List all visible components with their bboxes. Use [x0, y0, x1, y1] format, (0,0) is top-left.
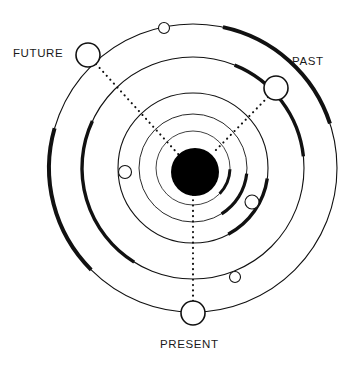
- core-circle: [171, 148, 219, 196]
- marker-small-top[interactable]: [159, 23, 170, 34]
- marker-small-left[interactable]: [119, 166, 132, 179]
- marker-present[interactable]: [181, 301, 205, 325]
- marker-future[interactable]: [76, 43, 100, 67]
- arc-fifth-right: [220, 169, 230, 193]
- connector-future-core: [96, 64, 179, 155]
- marker-small-lower-right[interactable]: [230, 272, 241, 283]
- arc-second-left: [82, 121, 134, 262]
- label-future: FUTURE: [13, 47, 63, 59]
- orbit-diagram: FUTURE PAST PRESENT: [0, 0, 358, 370]
- label-past: PAST: [292, 55, 324, 67]
- marker-small-right[interactable]: [245, 195, 259, 209]
- arc-fourth-right: [222, 174, 247, 214]
- label-present: PRESENT: [160, 338, 219, 350]
- marker-past[interactable]: [264, 76, 288, 100]
